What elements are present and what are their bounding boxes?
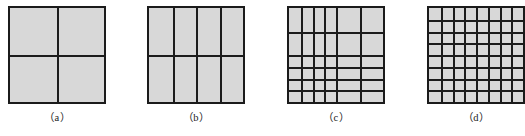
grid-lines-c xyxy=(289,8,383,102)
hline-a-0 xyxy=(10,55,104,57)
figure-root: （a） （b） （c） （d） xyxy=(0,0,525,136)
hline-d-0 xyxy=(429,20,523,22)
panel-a: （a） xyxy=(8,6,106,124)
hline-c-2 xyxy=(289,67,383,69)
hline-c-1 xyxy=(289,55,383,57)
hline-c-4 xyxy=(289,90,383,92)
grid-square-a xyxy=(8,6,106,104)
hline-c-3 xyxy=(289,79,383,81)
hline-d-6 xyxy=(429,90,523,92)
hline-d-4 xyxy=(429,67,523,69)
panel-label-c: （c） xyxy=(323,113,349,124)
panel-b: （b） xyxy=(147,6,245,124)
hline-b-0 xyxy=(149,55,243,57)
panel-d: （d） xyxy=(427,6,525,124)
grid-lines-b xyxy=(149,8,243,102)
panel-c: （c） xyxy=(287,6,385,124)
grid-square-b xyxy=(147,6,245,104)
grid-square-c xyxy=(287,6,385,104)
grid-lines-d xyxy=(429,8,523,102)
hline-c-0 xyxy=(289,32,383,34)
grid-lines-a xyxy=(10,8,104,102)
panel-label-d: （d） xyxy=(463,113,490,124)
grid-square-d xyxy=(427,6,525,104)
hline-d-3 xyxy=(429,55,523,57)
hline-d-1 xyxy=(429,32,523,34)
panel-label-b: （b） xyxy=(183,113,210,124)
panel-label-a: （a） xyxy=(44,113,70,124)
hline-d-2 xyxy=(429,43,523,45)
hline-d-5 xyxy=(429,79,523,81)
